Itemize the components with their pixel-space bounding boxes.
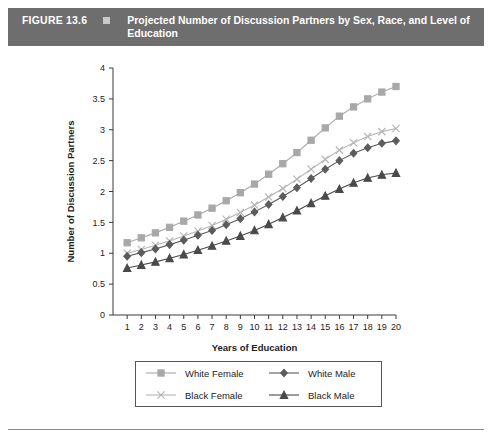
y-tick-label: 0: [100, 310, 105, 320]
legend-label: White Male: [308, 368, 356, 379]
diamond-marker-icon: [268, 367, 300, 379]
x-tick-label: 12: [278, 322, 288, 332]
x-tick-label: 7: [210, 322, 215, 332]
y-tick-label: 2: [100, 187, 105, 197]
x-tick-label: 15: [320, 322, 330, 332]
figure-number: FIGURE 13.6: [22, 14, 87, 27]
x-tick-label: 4: [167, 322, 172, 332]
legend-item-black-female[interactable]: Black Female: [136, 384, 261, 406]
x-tick-label: 8: [224, 322, 229, 332]
x-tick-label: 14: [306, 322, 316, 332]
x-tick-label: 16: [334, 322, 344, 332]
x-tick-label: 13: [292, 322, 302, 332]
y-tick-label: 3.5: [92, 94, 105, 104]
chart-legend: White FemaleWhite MaleBlack FemaleBlack …: [135, 361, 382, 407]
series-black-female: [124, 125, 400, 257]
legend-item-white-male[interactable]: White Male: [261, 362, 383, 384]
x-tick-label: 9: [238, 322, 243, 332]
series-white-male: [124, 137, 399, 260]
y-tick-label: 2.5: [92, 156, 105, 166]
cross-marker-icon: [145, 389, 177, 401]
footer-divider: [8, 429, 484, 430]
x-tick-label: 1: [125, 322, 130, 332]
legend-label: Black Female: [185, 390, 243, 401]
line-chart-plot: 00.511.522.533.54 1234567891011121314151…: [0, 46, 492, 396]
square-bullet-icon: [103, 17, 110, 24]
x-axis-title: Years of Education: [212, 342, 298, 353]
y-axis: 00.511.522.533.54: [92, 63, 113, 320]
x-tick-label: 2: [139, 322, 144, 332]
x-tick-label: 6: [195, 322, 200, 332]
legend-label: Black Male: [308, 390, 354, 401]
series-black-male: [123, 169, 399, 271]
figure-header-bar: FIGURE 13.6 Projected Number of Discussi…: [8, 8, 484, 46]
x-tick-label: 10: [249, 322, 259, 332]
y-tick-label: 1: [100, 248, 105, 258]
y-tick-label: 0.5: [92, 279, 105, 289]
legend-label: White Female: [185, 368, 244, 379]
x-tick-label: 18: [363, 322, 373, 332]
legend-item-white-female[interactable]: White Female: [136, 362, 261, 384]
figure-title: Projected Number of Discussion Partners …: [127, 14, 474, 40]
x-tick-label: 5: [181, 322, 186, 332]
x-tick-label: 11: [264, 322, 273, 332]
y-tick-label: 3: [100, 125, 105, 135]
x-axis: 1234567891011121314151617181920: [113, 315, 401, 332]
square-marker-icon: [145, 367, 177, 379]
y-tick-label: 1.5: [92, 218, 105, 228]
series-white-female: [124, 83, 399, 245]
x-tick-label: 20: [391, 322, 401, 332]
x-tick-label: 19: [377, 322, 387, 332]
x-tick-label: 3: [153, 322, 158, 332]
chart-figure: 00.511.522.533.54 1234567891011121314151…: [0, 46, 492, 396]
data-series-group: [123, 83, 399, 271]
y-axis-title: Number of Discussion Partners: [65, 120, 76, 262]
legend-item-black-male[interactable]: Black Male: [261, 384, 383, 406]
x-tick-label: 17: [349, 322, 359, 332]
triangle-marker-icon: [268, 389, 300, 401]
y-tick-label: 4: [100, 63, 105, 73]
